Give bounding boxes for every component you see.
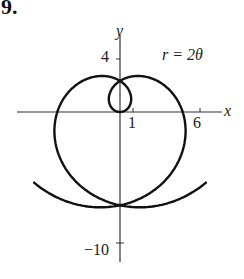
x-tick-label-6: 6 <box>193 114 201 132</box>
y-tick-label-4: 4 <box>101 48 109 66</box>
x-tick-label-1: 1 <box>128 114 136 132</box>
polar-plot <box>0 0 244 279</box>
y-tick-label-neg10: −10 <box>84 241 109 259</box>
x-axis-label: x <box>224 102 231 120</box>
equation-label: r = 2θ <box>162 46 203 64</box>
y-axis-label: y <box>116 22 123 40</box>
